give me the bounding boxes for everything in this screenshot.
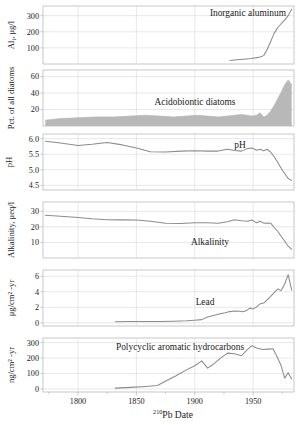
y-tick-label: 100 — [27, 369, 39, 378]
panel-title-ph: pH — [234, 140, 246, 150]
y-tick-label: 20 — [31, 223, 39, 232]
y-tick-label: 2 — [35, 303, 39, 312]
y-tick-label: 0 — [35, 385, 39, 394]
y-axis-label-alkalinity: Alkalinity, μeq/l — [6, 201, 16, 258]
y-tick-label: 6.0 — [29, 135, 39, 144]
y-tick-label: 200 — [27, 28, 39, 37]
x-tick-label: 1850 — [128, 397, 144, 406]
y-tick-label: 5.5 — [29, 150, 39, 159]
y-axis-label-acidobiontic-diatoms: Pct. of all diatoms — [6, 66, 16, 129]
y-tick-label: 4.5 — [29, 181, 39, 190]
panel-title-polycyclic-aromatic-hydrocarbons: Polycyclic aromatic hydrocarbons — [116, 342, 244, 352]
y-axis-label-ph: pH — [4, 157, 14, 168]
y-tick-label: 300 — [27, 12, 39, 21]
y-tick-label: 20 — [31, 105, 39, 114]
multi-panel-time-series-chart: 100200300Inorganic aluminumAli, μg/l2040… — [0, 0, 303, 425]
y-axis-label-inorganic-aluminum: Ali, μg/l — [6, 20, 17, 49]
y-tick-label: 100 — [27, 44, 39, 53]
y-tick-label: 4 — [35, 288, 39, 297]
y-tick-label: 60 — [31, 72, 39, 81]
y-axis-label-lead: μg/cm² -yr — [6, 280, 16, 317]
y-tick-label: 200 — [27, 354, 39, 363]
panel-title-alkalinity: Alkalinity — [191, 237, 229, 247]
y-tick-label: 6 — [35, 272, 39, 281]
y-tick-label: 5.0 — [29, 166, 39, 175]
x-tick-label: 1800 — [70, 397, 86, 406]
y-tick-label: 0 — [35, 319, 39, 328]
y-tick-label: 30 — [31, 207, 39, 216]
panel-title-lead: Lead — [196, 297, 215, 307]
y-tick-label: 300 — [27, 339, 39, 348]
panel-title-acidobiontic-diatoms: Acidobiontic diatoms — [155, 97, 236, 107]
panel-title-inorganic-aluminum: Inorganic aluminum — [210, 8, 287, 18]
x-tick-label: 1900 — [187, 397, 203, 406]
y-tick-label: 40 — [31, 89, 39, 98]
y-tick-label: 10 — [31, 238, 39, 247]
y-axis-label-polycyclic-aromatic-hydrocarbons: ng/cm² -yr — [6, 347, 16, 383]
figure-root: 100200300Inorganic aluminumAli, μg/l2040… — [0, 0, 303, 425]
x-tick-label: 1950 — [245, 397, 261, 406]
